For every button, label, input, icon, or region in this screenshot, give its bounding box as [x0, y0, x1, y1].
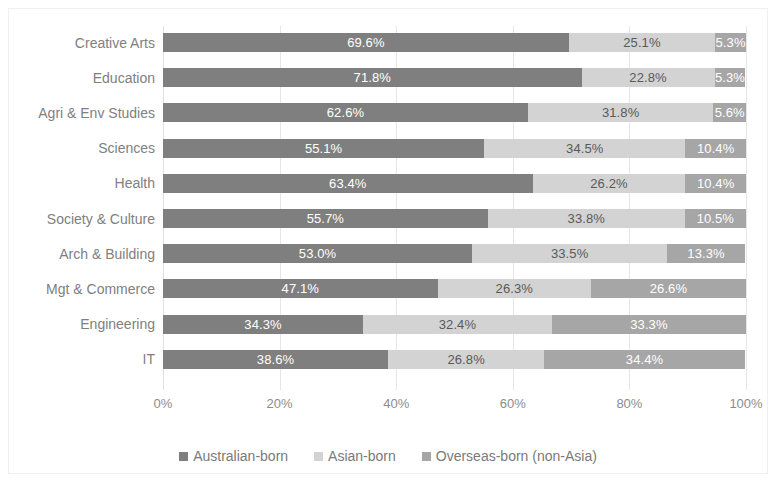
bar-value-label: 26.2%	[590, 177, 627, 190]
bar-segment: 26.3%	[438, 279, 591, 298]
bar-segment: 26.8%	[388, 350, 544, 369]
bar-row: 69.6%25.1%5.3%	[163, 33, 746, 52]
bar-segment: 55.7%	[163, 209, 488, 228]
category-label: Education	[93, 68, 155, 87]
legend-swatch-icon	[179, 452, 188, 461]
bar-segment: 69.6%	[163, 33, 569, 52]
x-axis-tick-label: 80%	[616, 396, 642, 411]
x-axis-tick-label: 0%	[154, 396, 173, 411]
bar-row: 38.6%26.8%34.4%	[163, 350, 746, 369]
bar-value-label: 26.3%	[496, 282, 533, 295]
x-axis-tick-label: 60%	[500, 396, 526, 411]
bar-row: 53.0%33.5%13.3%	[163, 244, 746, 263]
bar-segment: 32.4%	[363, 315, 552, 334]
bar-segment: 47.1%	[163, 279, 438, 298]
category-label: IT	[143, 350, 155, 369]
bar-value-label: 55.7%	[307, 212, 344, 225]
category-label: Health	[115, 174, 155, 193]
legend-item[interactable]: Australian-born	[179, 448, 288, 464]
bar-value-label: 71.8%	[354, 71, 391, 84]
category-label: Engineering	[80, 315, 155, 334]
category-label: Sciences	[98, 139, 155, 158]
bar-value-label: 32.4%	[439, 318, 476, 331]
bar-segment: 10.4%	[685, 174, 746, 193]
bar-value-label: 62.6%	[327, 106, 364, 119]
legend-label: Australian-born	[193, 448, 288, 464]
bar-row: 55.1%34.5%10.4%	[163, 139, 746, 158]
bar-segment: 53.0%	[163, 244, 472, 263]
bar-segment: 26.6%	[591, 279, 746, 298]
bar-segment: 22.8%	[582, 68, 715, 87]
plot-area: 69.6%25.1%5.3%71.8%22.8%5.3%62.6%31.8%5.…	[163, 26, 746, 390]
category-label: Society & Culture	[47, 209, 155, 228]
bar-row: 47.1%26.3%26.6%	[163, 279, 746, 298]
bar-value-label: 69.6%	[347, 36, 384, 49]
category-label: Arch & Building	[59, 244, 155, 263]
category-label: Agri & Env Studies	[38, 103, 155, 122]
legend-item[interactable]: Asian-born	[314, 448, 396, 464]
x-axis-tick-label: 20%	[267, 396, 293, 411]
bar-segment: 25.1%	[569, 33, 715, 52]
bar-segment: 34.3%	[163, 315, 363, 334]
category-label: Creative Arts	[75, 33, 155, 52]
bar-segment: 34.4%	[544, 350, 745, 369]
gridline-100pct	[746, 26, 747, 390]
bar-segment: 13.3%	[667, 244, 745, 263]
bar-value-label: 10.4%	[697, 142, 734, 155]
bar-segment: 31.8%	[528, 103, 713, 122]
bar-rows: 69.6%25.1%5.3%71.8%22.8%5.3%62.6%31.8%5.…	[163, 26, 746, 390]
bar-row: 34.3%32.4%33.3%	[163, 315, 746, 334]
bar-value-label: 26.6%	[650, 282, 687, 295]
bar-segment: 62.6%	[163, 103, 528, 122]
bar-value-label: 26.8%	[447, 353, 484, 366]
bar-segment: 63.4%	[163, 174, 533, 193]
legend-swatch-icon	[314, 452, 323, 461]
legend-item[interactable]: Overseas-born (non-Asia)	[422, 448, 597, 464]
bar-segment: 55.1%	[163, 139, 484, 158]
bar-segment: 33.8%	[488, 209, 685, 228]
bar-row: 71.8%22.8%5.3%	[163, 68, 746, 87]
bar-value-label: 34.5%	[566, 142, 603, 155]
bar-segment: 5.3%	[715, 68, 746, 87]
bar-value-label: 34.3%	[244, 318, 281, 331]
bar-value-label: 63.4%	[329, 177, 366, 190]
bar-segment: 5.6%	[713, 103, 746, 122]
bar-value-label: 34.4%	[626, 353, 663, 366]
bar-segment: 38.6%	[163, 350, 388, 369]
bar-segment: 5.3%	[715, 33, 746, 52]
bar-segment: 34.5%	[484, 139, 685, 158]
bar-value-label: 5.3%	[715, 71, 745, 84]
bar-value-label: 10.5%	[697, 212, 734, 225]
legend: Australian-bornAsian-bornOverseas-born (…	[0, 443, 776, 469]
bar-value-label: 31.8%	[602, 106, 639, 119]
category-label: Mgt & Commerce	[46, 279, 155, 298]
category-axis: Creative ArtsEducationAgri & Env Studies…	[0, 26, 155, 390]
stacked-bar-chart: Creative ArtsEducationAgri & Env Studies…	[0, 0, 776, 483]
bar-value-label: 10.4%	[697, 177, 734, 190]
bar-value-label: 38.6%	[257, 353, 294, 366]
bar-row: 62.6%31.8%5.6%	[163, 103, 746, 122]
bar-value-label: 13.3%	[687, 247, 724, 260]
bar-row: 63.4%26.2%10.4%	[163, 174, 746, 193]
bar-segment: 10.5%	[685, 209, 746, 228]
legend-label: Asian-born	[328, 448, 396, 464]
bar-segment: 10.4%	[685, 139, 746, 158]
x-axis-tick-label: 40%	[383, 396, 409, 411]
bar-value-label: 5.6%	[715, 106, 745, 119]
bar-value-label: 22.8%	[629, 71, 666, 84]
bar-value-label: 5.3%	[716, 36, 746, 49]
bar-value-label: 33.5%	[551, 247, 588, 260]
bar-value-label: 33.8%	[568, 212, 605, 225]
bar-value-label: 53.0%	[299, 247, 336, 260]
x-axis-tick-label: 100%	[729, 396, 762, 411]
bar-segment: 26.2%	[533, 174, 686, 193]
legend-swatch-icon	[422, 452, 431, 461]
bar-segment: 33.5%	[472, 244, 667, 263]
bar-value-label: 47.1%	[282, 282, 319, 295]
legend-label: Overseas-born (non-Asia)	[436, 448, 597, 464]
bar-value-label: 33.3%	[630, 318, 667, 331]
bar-value-label: 55.1%	[305, 142, 342, 155]
bar-segment: 71.8%	[163, 68, 582, 87]
bar-value-label: 25.1%	[623, 36, 660, 49]
bar-row: 55.7%33.8%10.5%	[163, 209, 746, 228]
